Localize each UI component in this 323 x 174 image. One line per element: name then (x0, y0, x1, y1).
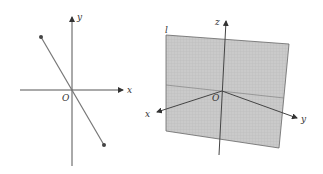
diagram-canvas: x y O z x y O l (0, 0, 323, 174)
left-coordinate-figure: x y O (20, 12, 132, 166)
plane-label: l (165, 25, 168, 35)
x-axis-label: x (127, 85, 132, 95)
segment-end-point (102, 143, 106, 147)
z-axis-label: z (214, 17, 220, 27)
y-axis-label: y (76, 12, 83, 22)
origin-3d-label: O (212, 93, 220, 103)
segment-start-point (39, 35, 43, 39)
origin-label: O (62, 93, 70, 103)
y-axis-3d-label: y (300, 114, 307, 124)
right-3d-figure: z x y O l (145, 17, 307, 155)
x-axis-3d-label: x (145, 109, 150, 119)
